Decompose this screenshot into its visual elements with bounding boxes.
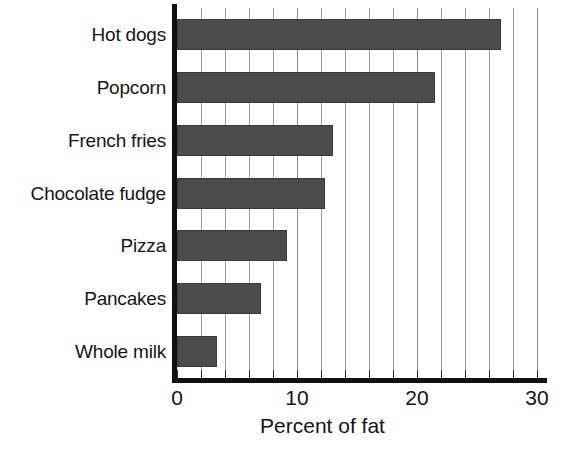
bar (177, 178, 325, 209)
bar (177, 283, 261, 314)
x-tick (249, 370, 250, 379)
bar (177, 230, 287, 261)
category-label: Chocolate fudge (0, 184, 172, 203)
x-tick (321, 370, 322, 379)
x-tick (345, 370, 346, 379)
category-label: Pizza (0, 236, 172, 255)
x-axis-ticks (177, 370, 537, 380)
category-label: Popcorn (0, 78, 172, 97)
x-tick (465, 370, 466, 379)
plot-area (177, 8, 537, 378)
x-tick-label: 20 (405, 386, 428, 410)
x-tick (513, 370, 514, 379)
gridline (441, 8, 442, 378)
gridline (417, 8, 418, 378)
x-axis-title: Percent of fat (0, 414, 573, 438)
bar (177, 125, 333, 156)
bar (177, 336, 217, 367)
x-tick (177, 370, 178, 379)
category-label: Pancakes (0, 289, 172, 308)
bar (177, 72, 435, 103)
x-tick (273, 370, 274, 379)
bar (177, 19, 501, 50)
gridline (537, 8, 538, 378)
gridline (465, 8, 466, 378)
gridline (393, 8, 394, 378)
x-tick (417, 370, 418, 379)
x-tick (537, 370, 538, 379)
x-tick-label: 10 (285, 386, 308, 410)
y-axis-line (172, 4, 177, 382)
x-tick (441, 370, 442, 379)
gridline (489, 8, 490, 378)
x-tick (225, 370, 226, 379)
x-tick (201, 370, 202, 379)
category-axis: Hot dogsPopcornFrench friesChocolate fud… (0, 8, 172, 378)
x-axis-tick-labels: 0102030 (0, 386, 573, 412)
category-label: Hot dogs (0, 25, 172, 44)
gridline (369, 8, 370, 378)
x-tick (369, 370, 370, 379)
gridline (513, 8, 514, 378)
bar-chart: Hot dogsPopcornFrench friesChocolate fud… (0, 0, 573, 451)
x-tick (297, 370, 298, 379)
x-tick-label: 0 (171, 386, 183, 410)
x-tick (489, 370, 490, 379)
x-tick (393, 370, 394, 379)
category-label: Whole milk (0, 342, 172, 361)
category-label: French fries (0, 131, 172, 150)
gridline (345, 8, 346, 378)
x-tick-label: 30 (525, 386, 548, 410)
